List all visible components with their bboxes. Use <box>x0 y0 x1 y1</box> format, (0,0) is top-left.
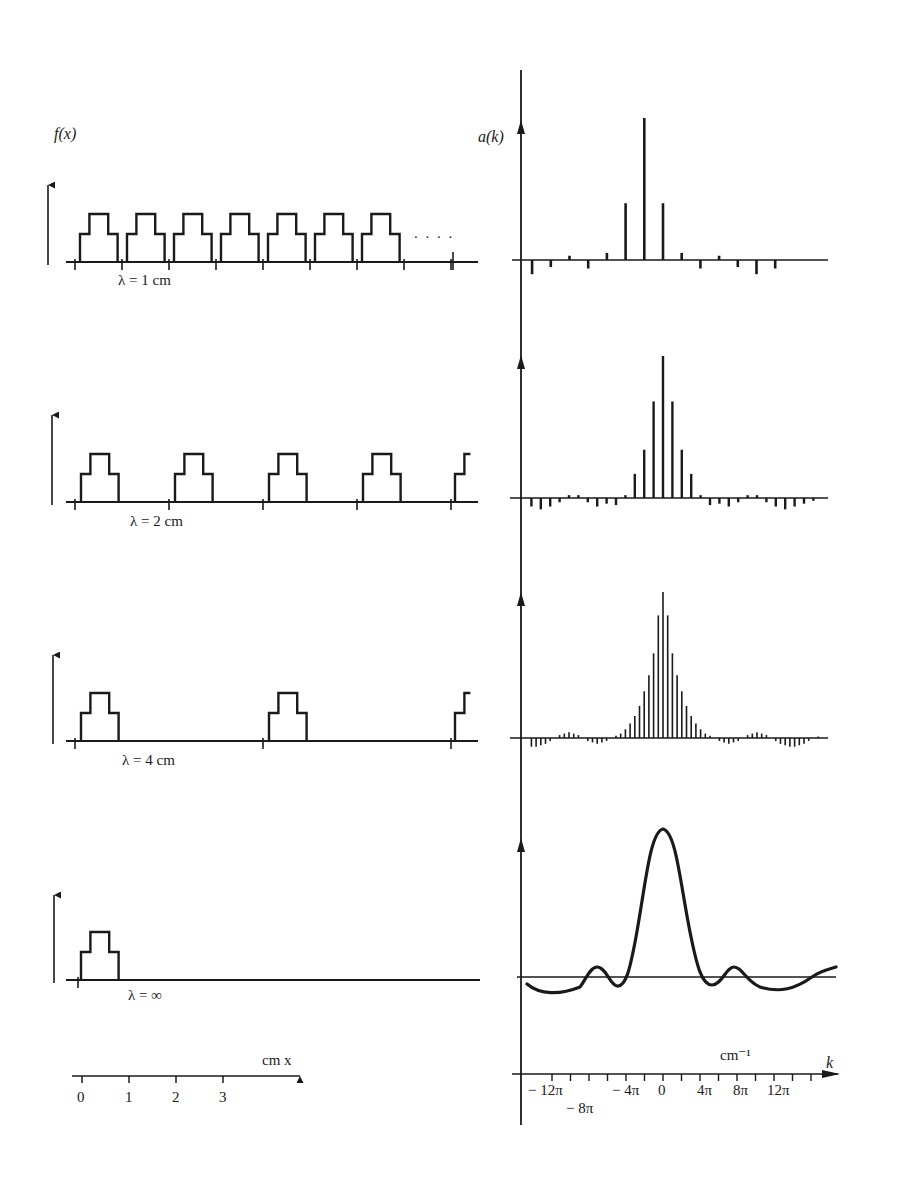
x-tick-1: 1 <box>125 1089 133 1106</box>
a-axis-arrowhead <box>517 120 525 134</box>
partial-pulse <box>455 454 470 502</box>
stepped-pulse <box>269 693 307 741</box>
spectrum-row-3 <box>510 592 828 747</box>
k-tick-0: 0 <box>658 1082 666 1099</box>
k-tick-neg8pi: − 8π <box>566 1100 593 1117</box>
lambda-label-row-1: λ = 1 cm <box>118 272 171 289</box>
stepped-pulse <box>81 454 119 502</box>
k-scale <box>512 1070 840 1081</box>
x-scale <box>72 1076 300 1083</box>
stepped-pulse <box>127 214 165 262</box>
a-axis-arrowhead <box>517 838 525 852</box>
stepped-pulse <box>221 214 259 262</box>
lambda-label-row-4: λ = ∞ <box>128 987 162 1004</box>
continuous-spectrum-curve <box>527 829 836 993</box>
k-unit-label: cm⁻¹ <box>720 1046 751 1064</box>
continuation-dots: . . . . <box>414 225 454 242</box>
fourier-series-figure <box>0 0 898 1187</box>
k-axis-label: k <box>826 1054 833 1072</box>
f-of-x-axis-label: f(x) <box>54 125 76 143</box>
frequency-domain-column <box>510 70 840 1125</box>
k-tick-12pi: 12π <box>767 1082 790 1099</box>
spatial-domain-column <box>48 185 480 1083</box>
stepped-pulse <box>174 214 212 262</box>
lambda-label-row-2: λ = 2 cm <box>130 513 183 530</box>
spectrum-row-1 <box>512 118 828 274</box>
spatial-row-2 <box>52 415 478 510</box>
x-scale-label: cm x <box>262 1052 292 1069</box>
lambda-label-row-3: λ = 4 cm <box>122 752 175 769</box>
k-tick-8pi: 8π <box>733 1082 748 1099</box>
stepped-pulse <box>81 932 119 980</box>
k-tick-neg4pi: − 4π <box>612 1082 639 1099</box>
a-axis-arrowhead <box>517 592 525 606</box>
stepped-pulse <box>269 454 307 502</box>
spectrum-row-2 <box>510 356 828 509</box>
a-of-k-axis-label: a(k) <box>478 128 504 146</box>
x-tick-3: 3 <box>219 1089 227 1106</box>
stepped-pulse <box>80 214 118 262</box>
spectrum-row-4 <box>517 829 836 993</box>
spatial-row-3 <box>53 655 478 749</box>
stepped-pulse <box>315 214 353 262</box>
x-tick-2: 2 <box>172 1089 180 1106</box>
stepped-pulse <box>362 214 400 262</box>
spatial-row-4 <box>54 895 480 988</box>
stepped-pulse <box>363 454 401 502</box>
stepped-pulse <box>81 693 119 741</box>
partial-pulse <box>455 693 470 741</box>
k-tick-4pi: 4π <box>697 1082 712 1099</box>
stepped-pulse <box>175 454 213 502</box>
stepped-pulse <box>268 214 306 262</box>
a-axis-arrowhead <box>517 355 525 369</box>
k-tick-neg12pi: − 12π <box>528 1082 563 1099</box>
x-tick-0: 0 <box>77 1089 85 1106</box>
